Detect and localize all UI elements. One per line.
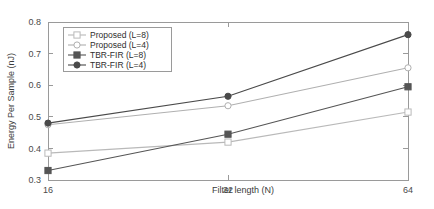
y-tick-label-0.4: 0.4 <box>28 144 41 154</box>
series-1-point-1 <box>225 103 231 109</box>
series-0-point-0 <box>45 150 51 156</box>
x-tick-label-16: 16 <box>43 185 53 195</box>
y-tick-label-0.8: 0.8 <box>28 17 41 27</box>
legend-label-1: Proposed (L=4) <box>90 40 149 50</box>
series-1-point-2 <box>405 65 411 71</box>
legend-marker-1 <box>74 42 80 48</box>
figure-container: 0.30.40.50.60.70.8163264Filter length (N… <box>0 0 434 209</box>
legend-marker-2 <box>74 52 80 58</box>
legend-marker-0 <box>74 32 80 38</box>
x-axis-title: Filter length (N) <box>212 185 274 195</box>
series-0-point-1 <box>225 139 231 145</box>
legend-marker-3 <box>74 62 80 68</box>
y-tick-label-0.7: 0.7 <box>28 49 41 59</box>
series-2-point-1 <box>225 131 231 137</box>
x-tick-label-64: 64 <box>403 185 413 195</box>
series-3-point-1 <box>225 93 231 99</box>
series-0-point-2 <box>405 109 411 115</box>
y-tick-label-0.6: 0.6 <box>28 80 41 90</box>
legend-label-0: Proposed (L=8) <box>90 30 149 40</box>
series-3-point-2 <box>405 32 411 38</box>
series-2-point-0 <box>45 167 51 173</box>
legend-label-3: TBR-FIR (L=4) <box>90 60 146 70</box>
legend-label-2: TBR-FIR (L=8) <box>90 50 146 60</box>
y-tick-label-0.3: 0.3 <box>28 175 41 185</box>
y-axis-title: Energy Per Sample (nJ) <box>6 53 16 149</box>
y-tick-label-0.5: 0.5 <box>28 112 41 122</box>
series-3-point-0 <box>45 120 51 126</box>
line-chart: 0.30.40.50.60.70.8163264Filter length (N… <box>0 0 434 209</box>
series-2-point-2 <box>405 84 411 90</box>
